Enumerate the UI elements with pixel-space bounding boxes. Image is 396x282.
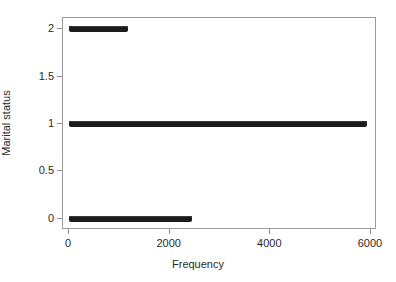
y-tick-label: 2	[34, 22, 54, 34]
x-tick	[370, 229, 371, 234]
data-band-marital-2	[69, 26, 128, 32]
y-axis-label: Marital status	[0, 90, 12, 155]
x-tick-label: 4000	[257, 237, 281, 249]
x-tick	[68, 229, 69, 234]
plot-area	[62, 17, 376, 229]
data-band-marital-1	[69, 121, 367, 127]
y-tick-label: 0	[34, 212, 54, 224]
y-tick	[57, 123, 62, 124]
x-tick	[269, 229, 270, 234]
chart-figure: 0200040006000 00.511.52 Frequency Marita…	[0, 0, 396, 282]
y-tick	[57, 170, 62, 171]
x-tick-label: 2000	[156, 237, 180, 249]
x-axis-label: Frequency	[0, 258, 396, 270]
y-tick-label: 1	[34, 117, 54, 129]
y-tick	[57, 28, 62, 29]
x-tick-label: 0	[65, 237, 71, 249]
x-tick-label: 6000	[358, 237, 382, 249]
x-tick	[169, 229, 170, 234]
y-tick-label: 1.5	[34, 70, 54, 82]
data-band-marital-0	[69, 216, 192, 222]
y-tick-label: 0.5	[34, 164, 54, 176]
y-tick	[57, 76, 62, 77]
y-tick	[57, 218, 62, 219]
